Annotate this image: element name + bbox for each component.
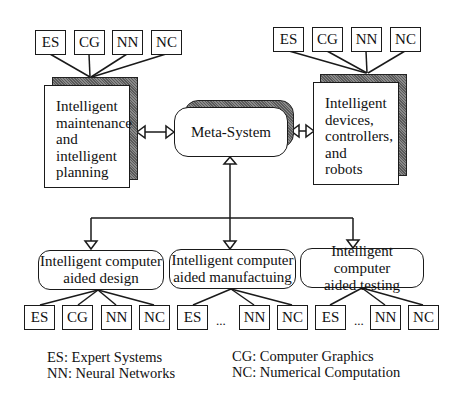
- meta-system-box: Meta-System: [174, 107, 288, 157]
- devices-robots-panel: Intelligent devices, controllers, and ro…: [313, 82, 399, 185]
- ellipsis: ...: [354, 313, 364, 329]
- panel-line: and: [56, 131, 129, 148]
- legend-left: ES: Expert Systems NN: Neural Networks: [47, 349, 175, 381]
- legend-item: CG: Computer Graphics: [232, 348, 400, 364]
- panel-line: and: [325, 145, 398, 162]
- module-subtitle: aided design: [39, 270, 163, 287]
- tag-cg: CG: [74, 30, 105, 55]
- module-design: Intelligent computer aided design: [38, 250, 164, 290]
- tag-es: ES: [35, 30, 66, 55]
- module-subtitle: aided testing: [301, 277, 423, 294]
- tag-nc: NC: [139, 305, 170, 330]
- tag-nn: NN: [370, 305, 401, 330]
- tag-nn: NN: [101, 305, 132, 330]
- legend-item: NN: Neural Networks: [47, 365, 175, 381]
- tag-nc: NC: [277, 305, 308, 330]
- legend-item: NC: Numerical Computation: [232, 364, 400, 380]
- tag-nc: NC: [151, 30, 182, 55]
- tag-es: ES: [315, 305, 346, 330]
- panel-line: Intelligent: [56, 98, 129, 115]
- connector-lines: [0, 0, 461, 406]
- tag-es: ES: [273, 27, 304, 52]
- tag-cg: CG: [312, 27, 343, 52]
- tag-es: ES: [24, 305, 55, 330]
- module-manufacturing: Intelligent computer aided manufactuing: [169, 249, 296, 289]
- module-title: Intelligent computer: [170, 252, 295, 269]
- tag-nn: NN: [351, 27, 382, 52]
- panel-line: planning: [56, 164, 129, 181]
- meta-system-label: Meta-System: [191, 124, 271, 141]
- panel-line: maintenance: [56, 115, 129, 132]
- panel-line: controllers,: [325, 128, 398, 145]
- tag-nn: NN: [239, 305, 270, 330]
- module-subtitle: aided manufactuing: [170, 269, 295, 286]
- maintenance-planning-panel: Intelligent maintenance and intelligent …: [44, 85, 130, 188]
- tag-es: ES: [177, 305, 208, 330]
- tag-cg: CG: [62, 305, 93, 330]
- tag-nc: NC: [408, 305, 439, 330]
- legend-item: ES: Expert Systems: [47, 349, 175, 365]
- panel-line: intelligent: [56, 148, 129, 165]
- panel-line: devices,: [325, 112, 398, 129]
- module-title: Intelligent computer: [39, 253, 163, 270]
- module-testing: Intelligent computer aided testing: [300, 248, 424, 288]
- tag-nc: NC: [390, 27, 421, 52]
- module-title: Intelligent computer: [301, 243, 423, 277]
- ellipsis: ...: [216, 313, 226, 329]
- legend-right: CG: Computer Graphics NC: Numerical Comp…: [232, 348, 400, 380]
- tag-nn: NN: [112, 30, 143, 55]
- panel-line: robots: [325, 161, 398, 178]
- panel-line: Intelligent: [325, 95, 398, 112]
